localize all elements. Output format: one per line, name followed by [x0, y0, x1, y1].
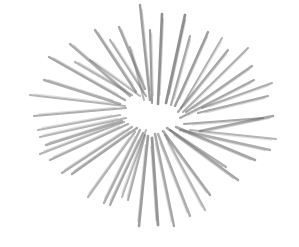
sketch-canvas [0, 0, 299, 247]
radial-burst-drawing [0, 0, 299, 247]
